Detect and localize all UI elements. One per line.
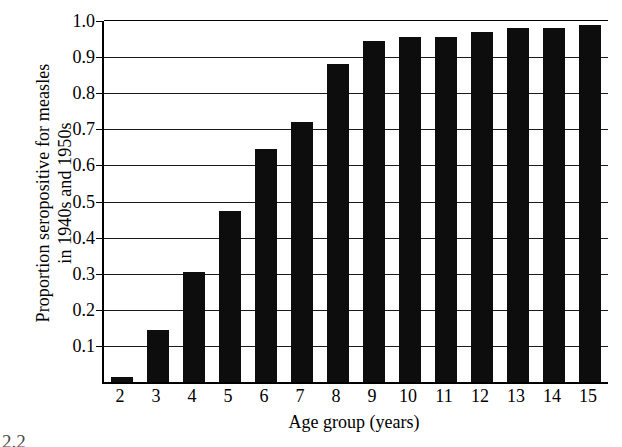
- x-axis-tick-label: 2: [116, 386, 125, 407]
- y-axis-tick: [96, 310, 104, 311]
- x-axis-tick-label: 14: [543, 386, 561, 407]
- bar: [579, 25, 601, 382]
- bar: [291, 122, 313, 382]
- bar: [363, 41, 385, 382]
- x-axis-tick-label: 5: [224, 386, 233, 407]
- x-axis-tick-label: 3: [152, 386, 161, 407]
- plot-area: 1.00.90.80.70.60.50.40.30.20.1: [102, 21, 608, 384]
- y-axis-tick: [96, 238, 104, 239]
- bar: [219, 211, 241, 382]
- y-axis-tick-label: 0.9: [73, 47, 96, 68]
- y-axis-tick-label: 0.4: [73, 227, 96, 248]
- y-axis-tick: [96, 274, 104, 275]
- y-axis-tick-label: 0.7: [73, 119, 96, 140]
- y-axis-tick-label: 0.3: [73, 263, 96, 284]
- x-axis-tick-label: 7: [296, 386, 305, 407]
- bar: [435, 37, 457, 382]
- y-axis-tick-label: 0.6: [73, 155, 96, 176]
- y-axis-tick-label: 0.1: [73, 335, 96, 356]
- bar: [111, 377, 133, 382]
- y-axis-tick-label: 0.5: [73, 191, 96, 212]
- y-axis-tick: [96, 346, 104, 347]
- bar: [147, 330, 169, 382]
- measles-seroprevalence-figure: Proportion seropositive for measles in 1…: [0, 0, 622, 447]
- y-axis-tick: [96, 129, 104, 130]
- x-axis-title: Age group (years): [102, 412, 606, 433]
- y-axis-tick: [96, 21, 104, 22]
- y-axis-tick: [96, 57, 104, 58]
- y-axis-tick: [96, 202, 104, 203]
- x-axis-tick-label: 9: [368, 386, 377, 407]
- x-axis-tick-label: 6: [260, 386, 269, 407]
- x-axis-tick-label: 10: [399, 386, 417, 407]
- bar-series: [104, 21, 608, 382]
- x-axis-tick-label: 12: [471, 386, 489, 407]
- bar: [327, 64, 349, 382]
- x-axis-tick-label: 11: [435, 386, 452, 407]
- x-axis-tick-label: 15: [579, 386, 597, 407]
- y-axis-tick-label: 0.8: [73, 83, 96, 104]
- bar: [183, 272, 205, 382]
- y-axis-tick-label: 1.0: [73, 11, 96, 32]
- y-axis-title-line-1: Proportion seropositive for measles: [33, 64, 55, 323]
- x-axis-tick-label: 4: [188, 386, 197, 407]
- y-axis-tick-label: 0.2: [73, 299, 96, 320]
- x-axis-tick-label: 13: [507, 386, 525, 407]
- bar: [399, 37, 421, 382]
- bar: [543, 28, 565, 382]
- bar: [471, 32, 493, 382]
- y-axis-tick: [96, 165, 104, 166]
- x-axis-tick-label: 8: [332, 386, 341, 407]
- bar: [507, 28, 529, 382]
- y-axis-tick: [96, 93, 104, 94]
- bar: [255, 149, 277, 382]
- x-axis-tick-labels: 23456789101112131415: [102, 386, 606, 410]
- figure-caption-number: 2.2: [2, 432, 26, 447]
